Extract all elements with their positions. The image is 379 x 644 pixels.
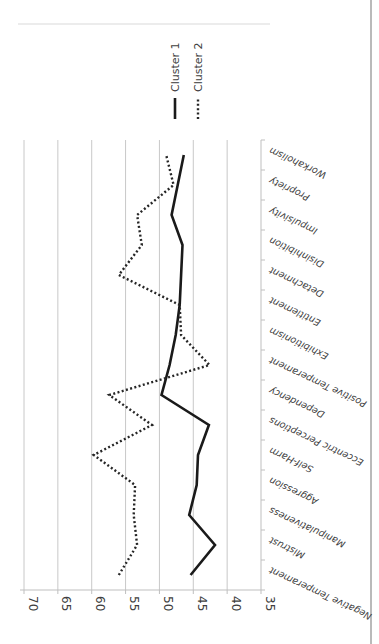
plot-series: [94, 155, 215, 575]
category-label: Self-Harm: [267, 445, 314, 475]
value-axis-labels: 7065605550454035: [26, 596, 277, 611]
value-tick-label: 70: [26, 596, 40, 611]
value-tick-label: 65: [59, 596, 73, 611]
category-label: Impulsivity: [267, 205, 319, 237]
value-tick-label: 60: [93, 596, 107, 611]
category-label: Entitlement: [266, 295, 322, 329]
legend-item-cluster-1: Cluster 1: [169, 42, 182, 119]
value-tick-label: 40: [229, 596, 243, 611]
category-label: Detachment: [266, 265, 325, 300]
category-label: Aggression: [267, 475, 320, 508]
category-label: Negative Temperament: [266, 565, 373, 623]
line-chart: 7065605550454035 Negative TemperamentMis…: [0, 0, 379, 644]
legend-label-cluster-2: Cluster 2: [192, 42, 205, 92]
legend-label-cluster-1: Cluster 1: [169, 42, 182, 92]
gridlines: [20, 140, 261, 594]
value-tick-label: 45: [195, 596, 209, 611]
category-label: Disinhibition: [267, 235, 325, 270]
category-labels: Negative TemperamentMistrustManipulative…: [266, 145, 373, 622]
category-axis: [261, 140, 265, 590]
category-label: Dependency: [267, 385, 326, 420]
category-label: Mistrust: [266, 535, 306, 562]
value-tick-label: 55: [127, 596, 141, 611]
category-label: Workaholism: [267, 145, 328, 181]
value-tick-label: 35: [263, 596, 277, 611]
category-label: Exhibitionism: [267, 325, 330, 362]
legend: Cluster 1 Cluster 2: [169, 42, 205, 119]
series-cluster-2-line: [94, 155, 210, 575]
legend-item-cluster-2: Cluster 2: [192, 42, 205, 119]
category-label: Propriety: [267, 175, 311, 203]
value-tick-label: 50: [161, 596, 175, 611]
